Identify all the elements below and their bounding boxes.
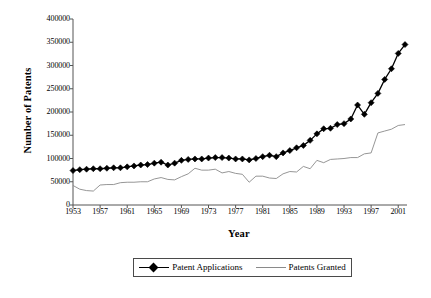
data-point-marker — [239, 156, 245, 162]
data-point-marker — [158, 159, 164, 165]
data-point-marker — [178, 157, 184, 163]
data-point-marker — [382, 76, 388, 82]
data-point-marker — [97, 166, 103, 172]
data-point-marker — [185, 156, 191, 162]
legend-label-patents-granted: Patents Granted — [289, 263, 346, 272]
series-line-patent-applications — [73, 45, 405, 171]
data-point-marker — [212, 155, 218, 161]
plot-area — [0, 0, 431, 298]
legend-item-patents-granted: Patents Granted — [256, 263, 346, 272]
data-point-marker — [253, 156, 259, 162]
series-markers-patent-applications — [70, 42, 408, 174]
data-point-marker — [117, 165, 123, 171]
data-point-marker — [138, 162, 144, 168]
data-point-marker — [70, 168, 76, 174]
data-point-marker — [151, 160, 157, 166]
data-point-marker — [266, 152, 272, 158]
data-point-marker — [104, 165, 110, 171]
data-point-marker — [77, 167, 83, 173]
data-point-marker — [90, 166, 96, 172]
legend-label-patent-applications: Patent Applications — [172, 263, 242, 272]
data-point-marker — [287, 148, 293, 154]
data-point-marker — [219, 155, 225, 161]
data-point-marker — [131, 163, 137, 169]
patent-trends-chart: Number of Patents 4000003500003000002500… — [0, 0, 431, 298]
legend-marker-diamond-icon — [139, 263, 169, 272]
legend-item-patent-applications: Patent Applications — [139, 263, 242, 272]
data-point-marker — [327, 125, 333, 131]
legend-marker-line-icon — [256, 263, 286, 272]
data-point-marker — [260, 154, 266, 160]
data-point-marker — [294, 145, 300, 151]
data-point-marker — [206, 155, 212, 161]
series-line-patents-granted — [73, 125, 405, 191]
data-point-marker — [246, 157, 252, 163]
data-point-marker — [111, 165, 117, 171]
data-point-marker — [192, 156, 198, 162]
data-point-marker — [165, 162, 171, 168]
data-point-marker — [199, 156, 205, 162]
data-point-marker — [124, 164, 130, 170]
data-point-marker — [273, 154, 279, 160]
data-point-marker — [84, 166, 90, 172]
chart-legend: Patent Applications Patents Granted — [133, 258, 352, 277]
data-point-marker — [172, 160, 178, 166]
data-point-marker — [334, 122, 340, 128]
x-axis-title: Year — [73, 228, 405, 239]
data-point-marker — [226, 155, 232, 161]
data-point-marker — [280, 150, 286, 156]
data-point-marker — [233, 156, 239, 162]
data-point-marker — [145, 162, 151, 168]
